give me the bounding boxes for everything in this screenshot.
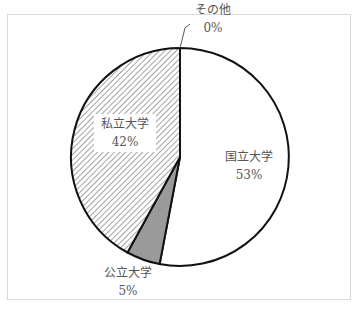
label-other-name: その他 <box>188 1 238 19</box>
label-national: 国立大学 53% <box>214 148 284 184</box>
label-private-name: 私立大学 <box>94 115 156 133</box>
label-other-pct: 0% <box>188 19 238 37</box>
label-national-pct: 53% <box>214 166 284 184</box>
label-private-pct: 42% <box>94 133 156 151</box>
label-national-name: 国立大学 <box>214 148 284 166</box>
label-public-name: 公立大学 <box>93 264 163 282</box>
label-private: 私立大学 42% <box>94 114 156 152</box>
label-other: その他 0% <box>188 1 238 37</box>
label-public: 公立大学 5% <box>93 264 163 300</box>
label-public-pct: 5% <box>93 282 163 300</box>
pie-chart <box>0 0 356 312</box>
